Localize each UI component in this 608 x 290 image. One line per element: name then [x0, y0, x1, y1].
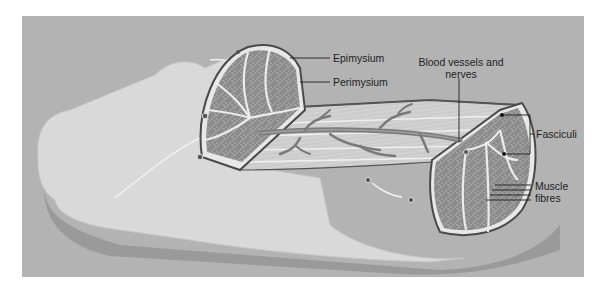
- label-blood-vessels-line1: Blood vessels and: [412, 56, 510, 68]
- label-fasciculi: Fasciculi: [536, 128, 577, 140]
- label-muscle-fibres-line1: Muscle: [535, 180, 568, 192]
- label-muscle-fibres-line2: fibres: [535, 192, 568, 204]
- label-epimysium: Epimysium: [333, 52, 384, 64]
- label-blood-vessels-and-nerves: Blood vessels and nerves: [412, 56, 510, 80]
- label-blood-vessels-line2: nerves: [412, 68, 510, 80]
- label-muscle-fibres: Muscle fibres: [535, 180, 568, 204]
- label-perimysium: Perimysium: [333, 76, 388, 88]
- muscle-cross-section-illustration: [0, 0, 608, 290]
